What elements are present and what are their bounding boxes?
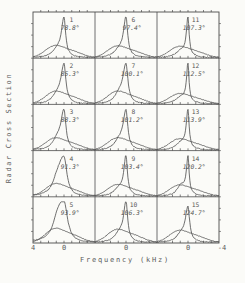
x-tick-zero-col2: 0 bbox=[118, 244, 134, 252]
panel-angle: 120.2° bbox=[183, 163, 206, 170]
panel-number: 5 bbox=[70, 201, 74, 208]
clutter-spectrum-curve bbox=[157, 93, 219, 103]
panel-number: 10 bbox=[130, 201, 138, 208]
x-tick-zero-col1: 0 bbox=[56, 244, 72, 252]
panel-angle: 103.4° bbox=[121, 163, 144, 170]
panel-number: 4 bbox=[70, 155, 74, 162]
panel-number: 3 bbox=[70, 108, 74, 115]
panel-angle: 124.7° bbox=[183, 209, 206, 216]
clutter-spectrum-curve bbox=[33, 45, 95, 57]
clutter-spectrum-curve bbox=[95, 46, 157, 58]
clutter-spectrum-curve bbox=[157, 230, 219, 242]
panel-angle: 101.2° bbox=[121, 116, 144, 123]
x-tick-plus4: 4 bbox=[25, 244, 41, 252]
clutter-spectrum-curve bbox=[95, 184, 157, 196]
clutter-spectrum-curve bbox=[95, 138, 157, 150]
panel-number: 14 bbox=[192, 155, 200, 162]
panel-angle: 93.9° bbox=[61, 209, 80, 216]
panel-number: 9 bbox=[132, 155, 136, 162]
panel-angle: 91.3° bbox=[61, 163, 80, 170]
panel-angle: 106.3° bbox=[121, 209, 144, 216]
clutter-spectrum-curve bbox=[95, 91, 157, 104]
panel-number: 2 bbox=[70, 62, 74, 69]
panel-number: 15 bbox=[192, 201, 200, 208]
panel-angle: 78.8° bbox=[61, 24, 80, 31]
panel-number: 1 bbox=[70, 16, 74, 23]
panel-angle: 113.9° bbox=[183, 116, 206, 123]
clutter-spectrum-curve bbox=[33, 138, 95, 150]
clutter-spectrum-curve bbox=[33, 91, 95, 103]
panel-angle: 107.3° bbox=[183, 24, 206, 31]
panel-angle: 100.1° bbox=[121, 70, 144, 77]
panel-number: 13 bbox=[192, 108, 200, 115]
clutter-spectrum-curve bbox=[157, 138, 219, 149]
panel-angle: 88.3° bbox=[61, 116, 80, 123]
clutter-spectrum-curve bbox=[95, 229, 157, 242]
panel-angle: 85.3° bbox=[61, 70, 80, 77]
x-tick-zero-col3: 0 bbox=[180, 244, 196, 252]
panel-angle: 97.4° bbox=[123, 24, 142, 31]
x-tick-minus4: -4 bbox=[214, 244, 230, 252]
panel-number: 7 bbox=[132, 62, 136, 69]
clutter-spectrum-curve bbox=[157, 46, 219, 57]
y-axis-label: Radar Cross Section bbox=[5, 73, 13, 183]
clutter-spectrum-curve bbox=[33, 183, 95, 196]
x-axis-label: Frequency (kHz) bbox=[57, 256, 193, 264]
panel-number: 6 bbox=[132, 16, 136, 23]
panel-angle: 112.5° bbox=[183, 70, 206, 77]
spectra-figure: 178.8°285.3°388.3°491.3°593.9°697.4°7100… bbox=[0, 0, 245, 283]
clutter-spectrum-curve bbox=[157, 185, 219, 196]
panel-number: 12 bbox=[192, 62, 200, 69]
clutter-spectrum-curve bbox=[33, 228, 95, 242]
spectra-grid-plot: 178.8°285.3°388.3°491.3°593.9°697.4°7100… bbox=[0, 0, 245, 283]
echo-spectrum-curve bbox=[33, 202, 95, 242]
panel-number: 11 bbox=[192, 16, 200, 23]
panel-number: 8 bbox=[132, 108, 136, 115]
